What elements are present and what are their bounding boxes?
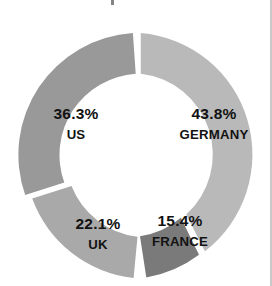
slice-percent-uk: 22.1% (52, 215, 144, 234)
slice-label-germany: 43.8% GERMANY (162, 105, 266, 143)
slice-percent-germany: 43.8% (162, 105, 266, 124)
donut-chart-canvas: 43.8% GERMANY 36.3% US 22.1% UK 15.4% FR… (0, 0, 272, 286)
clipped-title-artifact (111, 0, 114, 5)
slice-label-uk: 22.1% UK (52, 215, 144, 253)
slice-label-france: 15.4% FRANCE (134, 212, 226, 250)
slice-percent-france: 15.4% (134, 212, 226, 231)
slice-label-us: 36.3% US (30, 105, 122, 143)
slice-country-france: FRANCE (134, 234, 226, 250)
slice-country-germany: GERMANY (162, 127, 266, 143)
slice-percent-us: 36.3% (30, 105, 122, 124)
right-edge-rule (270, 0, 272, 286)
slice-country-us: US (30, 127, 122, 143)
slice-country-uk: UK (52, 237, 144, 253)
